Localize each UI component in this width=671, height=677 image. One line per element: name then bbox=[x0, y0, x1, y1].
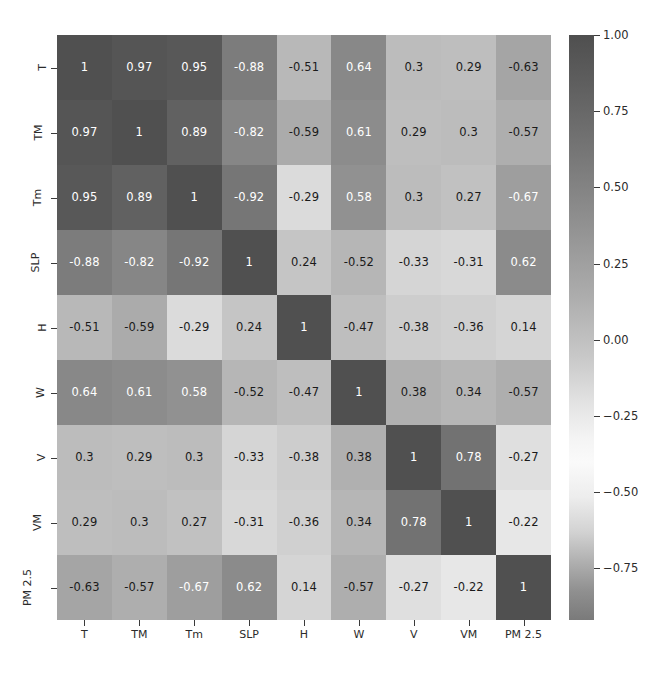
heatmap-cell-H-VM: -0.36 bbox=[441, 295, 496, 360]
heatmap-cell-value: -0.57 bbox=[508, 387, 538, 399]
x-tick-label-SLP: SLP bbox=[222, 628, 277, 641]
colorbar bbox=[569, 35, 594, 620]
heatmap-cell-value: 0.62 bbox=[236, 582, 262, 594]
heatmap-cell-VM-H: -0.36 bbox=[277, 490, 332, 555]
heatmap-cell-PM25-Tm: -0.67 bbox=[167, 555, 222, 620]
heatmap-cell-H-V: -0.38 bbox=[386, 295, 441, 360]
heatmap-cell-PM25-TM: -0.57 bbox=[112, 555, 167, 620]
heatmap-cell-SLP-H: 0.24 bbox=[277, 230, 332, 295]
heatmap-cell-value: -0.57 bbox=[508, 127, 538, 139]
heatmap-cell-value: 0.34 bbox=[456, 387, 482, 399]
heatmap-cell-TM-T: 0.97 bbox=[57, 100, 112, 165]
heatmap-grid: 10.970.95-0.88-0.510.640.30.29-0.630.971… bbox=[57, 35, 551, 620]
heatmap-cell-value: -0.22 bbox=[508, 517, 538, 529]
heatmap-cell-W-T: 0.64 bbox=[57, 360, 112, 425]
heatmap-cell-value: 0.29 bbox=[126, 452, 152, 464]
colorbar-tick-label: 0.00 bbox=[603, 333, 629, 347]
heatmap-cell-T-T: 1 bbox=[57, 35, 112, 100]
heatmap-cell-value: 0.38 bbox=[401, 387, 427, 399]
heatmap-cell-value: -0.59 bbox=[289, 127, 319, 139]
heatmap-cell-value: 1 bbox=[245, 257, 252, 269]
y-tick-label-text: V bbox=[36, 454, 49, 462]
y-tick-label-text: W bbox=[34, 387, 47, 398]
heatmap-cell-value: 0.27 bbox=[456, 192, 482, 204]
heatmap-cell-TM-PM25: -0.57 bbox=[496, 100, 551, 165]
x-axis-tick-mark bbox=[524, 620, 525, 626]
colorbar-tick-mark bbox=[594, 568, 600, 569]
heatmap-cell-SLP-VM: -0.31 bbox=[441, 230, 496, 295]
y-tick-label-Tm: Tm bbox=[0, 165, 46, 230]
heatmap-cell-value: 1 bbox=[520, 582, 527, 594]
heatmap-cell-value: 0.62 bbox=[511, 257, 537, 269]
heatmap-cell-value: 0.3 bbox=[404, 192, 423, 204]
heatmap-cell-value: 0.61 bbox=[346, 127, 372, 139]
heatmap-cell-VM-PM25: -0.22 bbox=[496, 490, 551, 555]
heatmap-cell-TM-TM: 1 bbox=[112, 100, 167, 165]
x-tick-label-V: V bbox=[386, 628, 441, 641]
heatmap-cell-SLP-PM25: 0.62 bbox=[496, 230, 551, 295]
heatmap-cell-value: -0.31 bbox=[234, 517, 264, 529]
heatmap-cell-W-H: -0.47 bbox=[277, 360, 332, 425]
heatmap-cell-value: 0.3 bbox=[185, 452, 204, 464]
heatmap-cell-value: -0.47 bbox=[344, 322, 374, 334]
heatmap-cell-V-V: 1 bbox=[386, 425, 441, 490]
colorbar-tick-mark bbox=[594, 340, 600, 341]
heatmap-cell-T-H: -0.51 bbox=[277, 35, 332, 100]
heatmap-cell-value: 0.29 bbox=[401, 127, 427, 139]
heatmap-cell-H-PM25: 0.14 bbox=[496, 295, 551, 360]
heatmap-cell-VM-SLP: -0.31 bbox=[222, 490, 277, 555]
heatmap-cell-value: -0.88 bbox=[69, 257, 99, 269]
heatmap-cell-VM-VM: 1 bbox=[441, 490, 496, 555]
heatmap-cell-value: 0.61 bbox=[126, 387, 152, 399]
y-tick-label-SLP: SLP bbox=[0, 230, 46, 295]
heatmap-cell-T-TM: 0.97 bbox=[112, 35, 167, 100]
heatmap-cell-value: 0.97 bbox=[71, 127, 97, 139]
colorbar-tick-mark bbox=[594, 35, 600, 36]
heatmap-cell-PM25-W: -0.57 bbox=[331, 555, 386, 620]
heatmap-cell-value: -0.92 bbox=[234, 192, 264, 204]
heatmap-cell-Tm-TM: 0.89 bbox=[112, 165, 167, 230]
heatmap-cell-value: 0.97 bbox=[126, 62, 152, 74]
x-axis-tick-mark bbox=[414, 620, 415, 626]
heatmap-cell-value: -0.27 bbox=[508, 452, 538, 464]
heatmap-cell-value: 0.64 bbox=[71, 387, 97, 399]
y-tick-label-TM: TM bbox=[0, 100, 46, 165]
heatmap-cell-Tm-SLP: -0.92 bbox=[222, 165, 277, 230]
y-tick-label-T: T bbox=[0, 35, 46, 100]
heatmap-cell-value: 0.95 bbox=[181, 62, 207, 74]
heatmap-cell-value: 1 bbox=[410, 452, 417, 464]
heatmap-cell-SLP-T: -0.88 bbox=[57, 230, 112, 295]
x-axis-tick-mark bbox=[359, 620, 360, 626]
y-tick-label-VM: VM bbox=[0, 490, 46, 555]
heatmap-cell-value: 0.64 bbox=[346, 62, 372, 74]
heatmap-cell-VM-V: 0.78 bbox=[386, 490, 441, 555]
heatmap-cell-H-H: 1 bbox=[277, 295, 332, 360]
heatmap-cell-VM-TM: 0.3 bbox=[112, 490, 167, 555]
heatmap-cell-value: 1 bbox=[191, 192, 198, 204]
heatmap-cell-value: 1 bbox=[300, 322, 307, 334]
heatmap-cell-value: -0.52 bbox=[234, 387, 264, 399]
heatmap-cell-V-PM25: -0.27 bbox=[496, 425, 551, 490]
heatmap-cell-value: 0.58 bbox=[346, 192, 372, 204]
heatmap-cell-value: 0.29 bbox=[71, 517, 97, 529]
heatmap-cell-value: -0.57 bbox=[124, 582, 154, 594]
heatmap-cell-TM-SLP: -0.82 bbox=[222, 100, 277, 165]
x-tick-label-PM25: PM 2.5 bbox=[496, 628, 551, 641]
heatmap-cell-Tm-T: 0.95 bbox=[57, 165, 112, 230]
heatmap-cell-TM-H: -0.59 bbox=[277, 100, 332, 165]
heatmap-cell-value: -0.92 bbox=[179, 257, 209, 269]
heatmap-cell-SLP-TM: -0.82 bbox=[112, 230, 167, 295]
x-axis-tick-mark bbox=[249, 620, 250, 626]
heatmap-cell-W-V: 0.38 bbox=[386, 360, 441, 425]
y-tick-label-PM25: PM 2.5 bbox=[0, 555, 46, 620]
heatmap-cell-value: 0.24 bbox=[291, 257, 317, 269]
heatmap-cell-TM-Tm: 0.89 bbox=[167, 100, 222, 165]
heatmap-cell-value: -0.36 bbox=[289, 517, 319, 529]
colorbar-tick-label: −0.25 bbox=[603, 409, 638, 423]
y-tick-label-text: H bbox=[35, 323, 48, 331]
heatmap-cell-PM25-V: -0.27 bbox=[386, 555, 441, 620]
heatmap-cell-TM-V: 0.29 bbox=[386, 100, 441, 165]
x-axis-tick-mark bbox=[194, 620, 195, 626]
heatmap-cell-H-TM: -0.59 bbox=[112, 295, 167, 360]
heatmap-cell-T-VM: 0.29 bbox=[441, 35, 496, 100]
